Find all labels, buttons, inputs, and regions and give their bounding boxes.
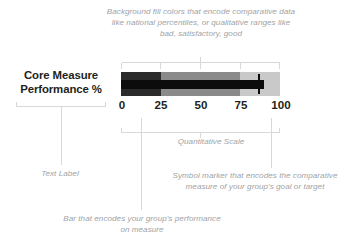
annotation-symbol-marker: Symbol marker that encodes the comparati…	[164, 170, 346, 192]
quantitative-axis: 0 25 50 75 100	[0, 98, 348, 114]
performance-bar	[121, 80, 264, 89]
bullet-chart-diagram: Background fill colors that encode compa…	[0, 0, 348, 247]
annotation-quantitative-scale: Quantitative Scale	[144, 136, 278, 147]
row-label-line-1: Core Measure	[8, 68, 114, 82]
axis-tick-label: 25	[155, 98, 168, 111]
bands-bracket	[122, 57, 280, 69]
row-label: Core Measure Performance %	[8, 68, 114, 96]
axis-tick-label: 0	[119, 98, 125, 111]
axis-tick-label: 50	[195, 98, 208, 111]
annotation-background-bands: Background fill colors that encode compa…	[104, 6, 298, 39]
bullet-chart	[121, 72, 280, 96]
annotation-text-label: Text Label	[14, 168, 106, 179]
axis-tick-label: 75	[235, 98, 248, 111]
target-marker	[258, 74, 260, 94]
row-label-line-2: Performance %	[8, 82, 114, 96]
axis-tick-label: 100	[271, 98, 290, 111]
annotation-bar: Bar that encodes your group's performanc…	[60, 213, 224, 235]
